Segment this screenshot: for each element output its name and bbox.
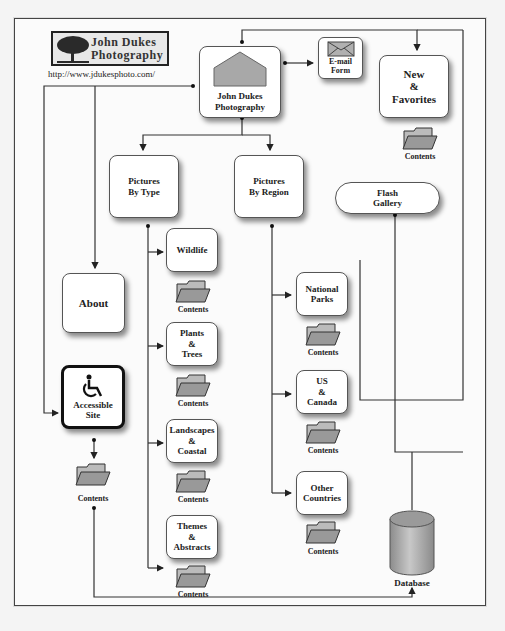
node-database-label: Database: [387, 578, 437, 588]
node-email-form[interactable]: E-mail Form: [318, 37, 363, 79]
database-cylinder-icon: [387, 510, 437, 576]
node-themes-abstracts[interactable]: Themes & Abstracts: [166, 515, 218, 559]
folder-icon: [175, 280, 211, 304]
node-pictures-by-type-label: Pictures By Type: [128, 176, 159, 197]
envelope-icon: [327, 41, 355, 57]
node-new-favorites-label: New & Favorites: [392, 68, 436, 106]
node-flash-gallery[interactable]: Flash Gallery: [335, 182, 440, 214]
node-accessible-site-label: Accessible Site: [73, 400, 113, 421]
folder-label[interactable]: Contents: [68, 494, 118, 503]
tree-icon: [55, 34, 91, 64]
folder-icon: [175, 470, 211, 494]
node-landscapes-coastal[interactable]: Landscapes & Coastal: [166, 419, 218, 463]
node-other-countries[interactable]: Other Countries: [296, 471, 348, 515]
folder-icon: [402, 127, 438, 151]
folder-icon: [305, 421, 341, 445]
node-pictures-by-region-label: Pictures By Region: [249, 176, 289, 197]
node-database[interactable]: Database: [387, 510, 437, 590]
node-us-canada[interactable]: US & Canada: [296, 370, 348, 414]
node-landscapes-coastal-label: Landscapes & Coastal: [169, 425, 214, 456]
folder-label[interactable]: Contents: [298, 547, 348, 556]
node-plants-trees-label: Plants & Trees: [180, 328, 204, 359]
folder-icon: [305, 521, 341, 545]
logo-title: John Dukes: [91, 36, 163, 49]
node-other-countries-label: Other Countries: [303, 483, 341, 504]
node-wildlife[interactable]: Wildlife: [166, 228, 218, 272]
node-email-label: E-mail Form: [329, 57, 352, 75]
node-about-label: About: [79, 297, 108, 310]
folder-icon: [305, 323, 341, 347]
folder-label[interactable]: Contents: [168, 495, 218, 504]
site-url[interactable]: http://www.jdukesphoto.com/: [48, 69, 155, 79]
house-icon: [212, 50, 268, 88]
node-flash-gallery-label: Flash Gallery: [373, 188, 402, 209]
node-plants-trees[interactable]: Plants & Trees: [166, 322, 218, 366]
folder-label[interactable]: Contents: [298, 446, 348, 455]
node-new-favorites[interactable]: New & Favorites: [379, 55, 449, 118]
node-home[interactable]: John Dukes Photography: [199, 46, 281, 118]
node-pictures-by-type[interactable]: Pictures By Type: [109, 155, 179, 218]
node-national-parks-label: National Parks: [305, 284, 338, 305]
logo[interactable]: John Dukes Photography: [51, 31, 169, 66]
folder-label[interactable]: Contents: [395, 152, 445, 161]
logo-subtitle: Photography: [91, 49, 163, 62]
node-wildlife-label: Wildlife: [177, 245, 208, 255]
folder-icon: [75, 463, 111, 487]
node-national-parks[interactable]: National Parks: [296, 272, 348, 316]
node-us-canada-label: US & Canada: [307, 376, 337, 407]
folder-label[interactable]: Contents: [168, 305, 218, 314]
wheelchair-icon: [80, 374, 106, 400]
node-home-label: John Dukes Photography: [215, 91, 265, 112]
node-accessible-site[interactable]: Accessible Site: [61, 365, 125, 429]
folder-label[interactable]: Contents: [168, 399, 218, 408]
folder-label[interactable]: Contents: [298, 348, 348, 357]
folder-label[interactable]: Contents: [168, 590, 218, 599]
folder-icon: [175, 565, 211, 589]
node-pictures-by-region[interactable]: Pictures By Region: [234, 155, 304, 218]
node-about[interactable]: About: [62, 273, 125, 333]
folder-icon: [175, 374, 211, 398]
node-themes-abstracts-label: Themes & Abstracts: [174, 521, 211, 552]
